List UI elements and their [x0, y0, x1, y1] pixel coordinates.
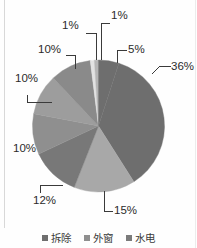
slice-label-10-left-upper: 10% — [15, 72, 38, 84]
plot-area: 36% 5% 1% 1% 10% 10% 10% 12% 15% — [0, 0, 197, 222]
leader-line-1-b — [101, 23, 110, 60]
leader-line-12 — [40, 185, 63, 193]
leader-line-36 — [152, 66, 171, 74]
slice-label-1-a: 1% — [62, 19, 79, 31]
pie-chart-figure: 36% 5% 1% 1% 10% 10% 10% 12% 15% 拆除外窗水电 — [0, 0, 197, 248]
pie-svg — [0, 0, 197, 222]
slice-label-15: 15% — [114, 204, 137, 216]
legend-swatch-icon — [126, 235, 132, 241]
slice-label-12: 12% — [33, 194, 56, 206]
legend-swatch-icon — [84, 235, 90, 241]
leader-line-5 — [117, 50, 127, 63]
slice-label-5: 5% — [128, 43, 145, 55]
slice-label-10-top: 10% — [38, 43, 61, 55]
legend-item-label: 外窗 — [93, 233, 113, 244]
legend-item[interactable]: 水电 — [126, 233, 155, 244]
slice-label-10-left-lower: 10% — [13, 142, 36, 154]
legend-item-label: 拆除 — [51, 233, 71, 244]
slice-label-36: 36% — [171, 60, 194, 72]
slice-label-1-b: 1% — [111, 9, 128, 21]
leader-line-1-a — [86, 33, 96, 60]
legend-item[interactable]: 外窗 — [84, 233, 113, 244]
pie-slices-group — [33, 60, 165, 192]
legend-item[interactable]: 拆除 — [42, 233, 71, 244]
leader-line-15 — [104, 191, 113, 211]
legend-swatch-icon — [42, 235, 48, 241]
legend-item-label: 水电 — [135, 233, 155, 244]
chart-legend: 拆除外窗水电 — [0, 228, 197, 248]
